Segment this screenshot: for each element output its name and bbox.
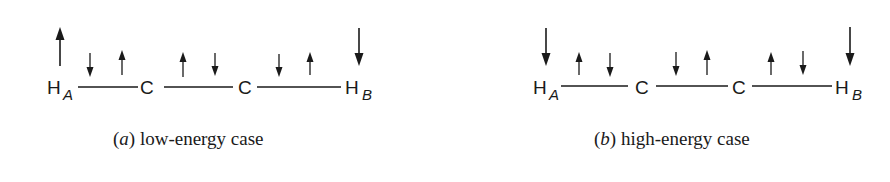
caption-b: (b) high-energy case xyxy=(594,128,750,150)
spin-down-arrow-icon xyxy=(212,53,219,76)
caption-b-text: high-energy case xyxy=(621,128,750,149)
caption-a-close-paren: ) xyxy=(129,128,135,149)
atom-c1-label: C xyxy=(635,77,649,98)
spin-down-arrow-icon xyxy=(846,27,855,66)
atom-h-a-label: H xyxy=(533,77,547,98)
spin-up-arrow-icon xyxy=(768,52,775,75)
panel-a-low-energy: H A C C H B xyxy=(47,27,372,103)
subscript-b: B xyxy=(362,86,372,103)
spin-down-arrow-icon xyxy=(673,52,680,76)
caption-a: (a) low-energy case xyxy=(113,128,264,150)
spin-up-arrow-icon xyxy=(180,52,187,77)
subscript-a: A xyxy=(548,86,559,103)
spin-down-arrow-icon xyxy=(355,28,364,66)
spin-down-arrow-icon xyxy=(800,51,807,75)
panel-b-high-energy: H A C C H B xyxy=(533,27,862,103)
spin-up-arrow-icon xyxy=(119,50,126,75)
atom-h-a-label: H xyxy=(47,77,61,98)
atom-c1-label: C xyxy=(140,77,154,98)
caption-b-close-paren: ) xyxy=(610,128,616,149)
atom-h-b-label: H xyxy=(345,77,359,98)
spin-down-arrow-icon xyxy=(542,28,551,66)
caption-a-text: low-energy case xyxy=(140,128,264,149)
caption-b-letter: b xyxy=(600,128,610,149)
spin-down-arrow-icon xyxy=(607,53,614,77)
atom-c2-label: C xyxy=(732,77,746,98)
spin-down-arrow-icon xyxy=(276,54,283,77)
subscript-b: B xyxy=(852,86,862,103)
atom-h-b-label: H xyxy=(835,77,849,98)
spin-up-arrow-icon xyxy=(56,27,65,66)
spin-up-arrow-icon xyxy=(307,52,314,75)
atom-c2-label: C xyxy=(238,77,252,98)
caption-a-letter: a xyxy=(119,128,129,149)
subscript-a: A xyxy=(62,86,73,103)
spin-up-arrow-icon xyxy=(704,50,711,75)
spin-pairing-figure: H A C C H B xyxy=(0,0,890,182)
spin-down-arrow-icon xyxy=(87,53,94,77)
spin-up-arrow-icon xyxy=(576,52,583,75)
